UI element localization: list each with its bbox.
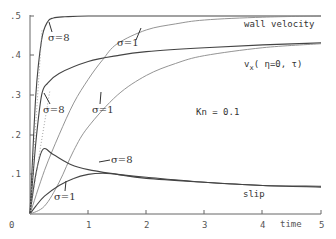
y-tick-labels: .5 .4 .3 .2 .1 0 xyxy=(9,11,21,230)
arrow xyxy=(99,160,110,162)
knudsen-label: Kn = 0.1 xyxy=(196,107,239,117)
sigma8-vx-label: σ=8 xyxy=(43,104,65,115)
series-line xyxy=(30,149,321,214)
sigma8-wall-label: σ=8 xyxy=(48,32,70,43)
y-tick-label: .2 xyxy=(10,130,21,140)
sigma1-slip-label: σ=1 xyxy=(54,191,76,202)
transient-dotted-line xyxy=(30,30,50,214)
x-tick-label: 5 xyxy=(319,220,324,230)
x-axis-label: time xyxy=(280,219,302,229)
y-tick-label: .1 xyxy=(10,169,21,179)
series-line xyxy=(30,44,321,214)
x-tick-label: 2 xyxy=(144,220,149,230)
sigma1-vx-label: σ=1 xyxy=(92,104,114,115)
origin-label: 0 xyxy=(9,220,14,230)
arrow xyxy=(49,22,52,32)
x-tick-label: 1 xyxy=(86,220,91,230)
y-tick-label: .5 xyxy=(10,11,21,21)
wall-velocity-label: wall velocity xyxy=(244,19,315,29)
series-curves xyxy=(30,16,321,214)
x-tick-labels: 1 2 3 4 time 5 xyxy=(86,219,324,230)
vx-label: vx( η=0, τ) xyxy=(244,59,302,72)
series-line xyxy=(30,16,321,214)
series-line xyxy=(30,16,321,214)
y-tick-label: .4 xyxy=(10,50,21,60)
slip-label: slip xyxy=(243,189,265,199)
x-tick-label: 3 xyxy=(202,220,207,230)
y-tick-label: .3 xyxy=(10,90,21,100)
line-chart: .5 .4 .3 .2 .1 0 1 2 3 4 time 5 wall vel… xyxy=(0,0,336,239)
arrow xyxy=(100,92,101,104)
sigma1-wall-label: σ=1 xyxy=(117,37,139,48)
x-tick-label: 4 xyxy=(260,220,265,230)
sigma8-slip-label: σ=8 xyxy=(111,154,133,165)
